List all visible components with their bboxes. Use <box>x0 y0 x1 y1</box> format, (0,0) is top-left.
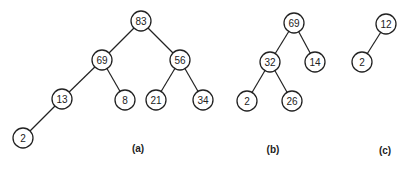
node-label: 69 <box>288 18 300 29</box>
tree-node: 26 <box>282 91 302 111</box>
node-label: 69 <box>96 55 108 66</box>
tree-caption: (b) <box>267 144 280 155</box>
tree-node: 2 <box>237 91 257 111</box>
node-label: 34 <box>197 95 209 106</box>
tree-node: 12 <box>376 14 396 34</box>
tree-node: 34 <box>193 90 213 110</box>
tree-node: 21 <box>146 90 166 110</box>
edges-layer <box>23 21 386 138</box>
node-label: 26 <box>286 96 298 107</box>
node-label: 14 <box>309 57 321 68</box>
node-label: 21 <box>150 95 162 106</box>
nodes-layer: 83695613821342693214226122 <box>13 11 396 148</box>
node-label: 32 <box>264 57 276 68</box>
node-label: 13 <box>56 94 68 105</box>
tree-node: 32 <box>260 52 280 72</box>
tree-node: 14 <box>305 52 325 72</box>
node-label: 83 <box>135 16 147 27</box>
node-label: 56 <box>174 55 186 66</box>
tree-node: 13 <box>52 89 72 109</box>
tree-node: 2 <box>13 128 33 148</box>
node-label: 2 <box>244 96 250 107</box>
node-label: 2 <box>359 57 365 68</box>
tree-node: 2 <box>352 52 372 72</box>
tree-node: 83 <box>131 11 151 31</box>
tree-node: 56 <box>170 50 190 70</box>
captions-layer: (a)(b)(c) <box>132 143 391 156</box>
tree-node: 8 <box>115 90 135 110</box>
tree-node: 69 <box>284 13 304 33</box>
node-label: 2 <box>20 133 26 144</box>
tree-caption: (a) <box>132 143 144 154</box>
node-label: 8 <box>122 95 128 106</box>
tree-caption: (c) <box>379 145 391 156</box>
binary-trees-diagram: 83695613821342693214226122 (a)(b)(c) <box>0 0 407 169</box>
node-label: 12 <box>380 19 392 30</box>
tree-node: 69 <box>92 50 112 70</box>
